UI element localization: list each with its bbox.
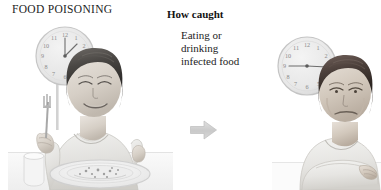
svg-text:12: 12 bbox=[304, 41, 310, 48]
svg-text:11: 11 bbox=[51, 34, 57, 41]
svg-text:7: 7 bbox=[294, 80, 297, 87]
section-heading-how-caught: How caught bbox=[167, 8, 224, 20]
right-arrow-icon bbox=[190, 119, 217, 141]
illustration-after: 12 1 2 3 4 5 6 7 8 9 10 11 bbox=[272, 28, 381, 190]
body-line-3: infected food bbox=[181, 55, 276, 68]
svg-text:12: 12 bbox=[62, 31, 68, 38]
svg-text:8: 8 bbox=[44, 63, 47, 70]
page-title: FOOD POISONING bbox=[12, 3, 112, 15]
svg-text:10: 10 bbox=[43, 42, 49, 49]
body-line-1: Eating or bbox=[181, 29, 276, 42]
svg-text:7: 7 bbox=[52, 70, 55, 77]
svg-text:6: 6 bbox=[63, 73, 66, 80]
svg-text:2: 2 bbox=[324, 52, 327, 59]
svg-text:8: 8 bbox=[286, 73, 289, 80]
illustration-before: 12 1 2 3 4 5 6 7 8 9 10 11 bbox=[8, 16, 173, 190]
svg-text:11: 11 bbox=[293, 44, 299, 51]
svg-text:2: 2 bbox=[82, 42, 85, 49]
food-poisoning-panel: FOOD POISONING How caught Eating or drin… bbox=[0, 0, 381, 190]
svg-text:9: 9 bbox=[41, 52, 44, 59]
body-line-2: drinking bbox=[181, 42, 276, 55]
svg-text:1: 1 bbox=[74, 34, 77, 41]
svg-text:10: 10 bbox=[285, 52, 291, 59]
svg-text:9: 9 bbox=[283, 62, 286, 69]
svg-text:1: 1 bbox=[316, 44, 319, 51]
section-body-text: Eating or drinking infected food bbox=[181, 29, 276, 69]
svg-text:6: 6 bbox=[305, 83, 308, 90]
